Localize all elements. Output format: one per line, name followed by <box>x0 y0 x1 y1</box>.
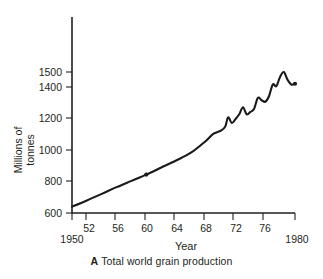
y-axis-title-line1: Millions of <box>12 127 24 174</box>
y-tick-label: 600 <box>44 207 62 219</box>
y-axis-title-line2: tonnes <box>24 134 36 166</box>
data-point-marker <box>144 173 148 177</box>
y-tick-label: 1400 <box>39 81 63 93</box>
data-point-marker <box>293 82 297 86</box>
y-tick-label: 1200 <box>39 112 63 124</box>
y-tick-label: 1000 <box>39 144 63 156</box>
x-tick-label: 1950 <box>60 233 84 245</box>
y-axis-tick-labels: 1500 1400 1200 1000 800 600 <box>39 66 63 219</box>
x-tick-label: 1980 <box>285 233 309 245</box>
x-tick-label: 60 <box>141 222 153 234</box>
y-tick-label: 800 <box>44 175 62 187</box>
line-chart: 1500 1400 1200 1000 800 600 Millions of … <box>0 0 323 252</box>
x-tick-label: 68 <box>200 222 212 234</box>
y-axis-title: Millions of tonnes <box>12 127 36 174</box>
data-point-markers <box>144 82 297 177</box>
x-tick-label: 76 <box>259 222 271 234</box>
x-tick-label: 64 <box>171 222 183 234</box>
figure-total-world-grain-production: 1500 1400 1200 1000 800 600 Millions of … <box>0 0 323 279</box>
x-axis-ticks <box>72 213 295 220</box>
x-axis-title: Year <box>175 240 198 252</box>
y-axis-ticks <box>66 72 72 213</box>
y-tick-label: 1500 <box>39 66 63 78</box>
x-tick-label: 56 <box>112 222 124 234</box>
data-series-line <box>72 72 295 207</box>
x-tick-label: 72 <box>230 222 242 234</box>
figure-caption: ATotal world grain production <box>0 255 323 267</box>
caption-text: Total world grain production <box>101 255 232 267</box>
caption-letter: A <box>91 255 99 267</box>
x-tick-label: 52 <box>83 222 95 234</box>
